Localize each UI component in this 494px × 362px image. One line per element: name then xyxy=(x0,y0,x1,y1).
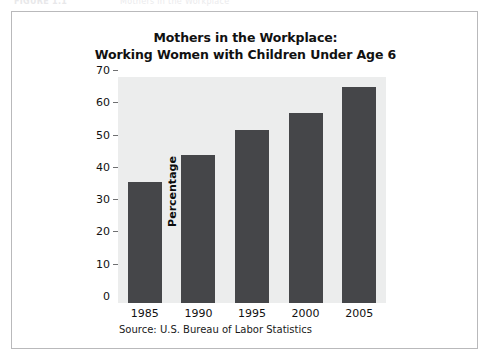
y-axis-tick-label: 70 xyxy=(96,65,110,77)
figure-frame: Mothers in the Workplace: Working Women … xyxy=(11,11,478,349)
bar-slot xyxy=(279,77,333,303)
y-axis-tick-label: 20 xyxy=(96,226,110,238)
y-axis-tick-label: 10 xyxy=(96,259,110,271)
source-note: Source: U.S. Bureau of Labor Statistics xyxy=(119,324,312,335)
x-axis-tick-label-1985: 1985 xyxy=(118,307,172,320)
x-axis-tick-label-1990: 1990 xyxy=(172,307,226,320)
y-axis-tick-label: 50 xyxy=(96,130,110,142)
plot-area: Percentage 70 60 50 40 30 xyxy=(118,77,386,303)
bars-layer xyxy=(118,77,386,303)
bar-slot xyxy=(118,77,172,303)
y-axis-tick-label: 60 xyxy=(96,97,110,109)
figure-caption-text: Mothers in the Workplace xyxy=(120,0,229,6)
bar-1995[interactable] xyxy=(235,130,269,303)
x-axis-tick-label-2005: 2005 xyxy=(332,307,386,320)
bar-2005[interactable] xyxy=(342,87,376,303)
bar-1990[interactable] xyxy=(181,155,215,304)
chart-title-line2: Working Women with Children Under Age 6 xyxy=(12,46,479,63)
bar-slot xyxy=(332,77,386,303)
chart-title-line1: Mothers in the Workplace: xyxy=(153,30,337,45)
x-axis-tick-label-1995: 1995 xyxy=(225,307,279,320)
bar-1985[interactable] xyxy=(128,182,162,303)
y-axis-tick-label: 30 xyxy=(96,194,110,206)
figure-caption-label: FIGURE 1.1 xyxy=(14,0,67,6)
y-axis-tick-mark xyxy=(113,70,118,71)
page-caption-strip: FIGURE 1.1 Mothers in the Workplace xyxy=(0,0,494,9)
chart-title: Mothers in the Workplace: Working Women … xyxy=(12,29,479,63)
y-axis-tick-label: 0 xyxy=(103,291,110,303)
bar-slot xyxy=(172,77,226,303)
bar-slot xyxy=(225,77,279,303)
y-axis-tick-label: 40 xyxy=(96,162,110,174)
bar-2000[interactable] xyxy=(289,113,323,303)
x-axis-tick-label-2000: 2000 xyxy=(279,307,333,320)
